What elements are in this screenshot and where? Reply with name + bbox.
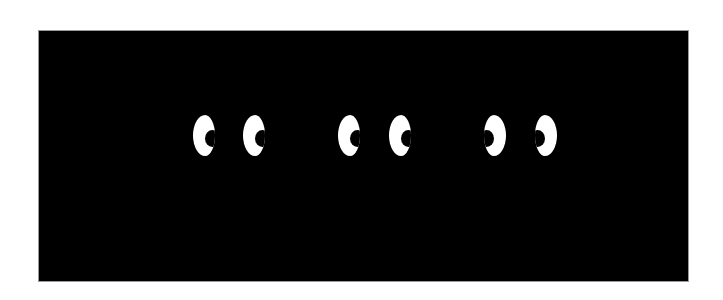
canvas [0,0,723,300]
pupil-icon [350,130,360,147]
eye-pair-3-left-eye [484,115,506,156]
eye-pair-1-right-eye [243,115,265,156]
pupil-icon [401,130,411,147]
eye-pair-1-left-eye [193,115,215,156]
eye-pair-2-right-eye [389,115,411,156]
pupil-icon [205,130,215,147]
eye-pair-2-left-eye [338,115,360,156]
black-panel [39,31,688,281]
pupil-icon [484,130,494,147]
pupil-icon [255,130,265,147]
eye-pair-3-right-eye [535,115,557,156]
pupil-icon [535,130,545,147]
